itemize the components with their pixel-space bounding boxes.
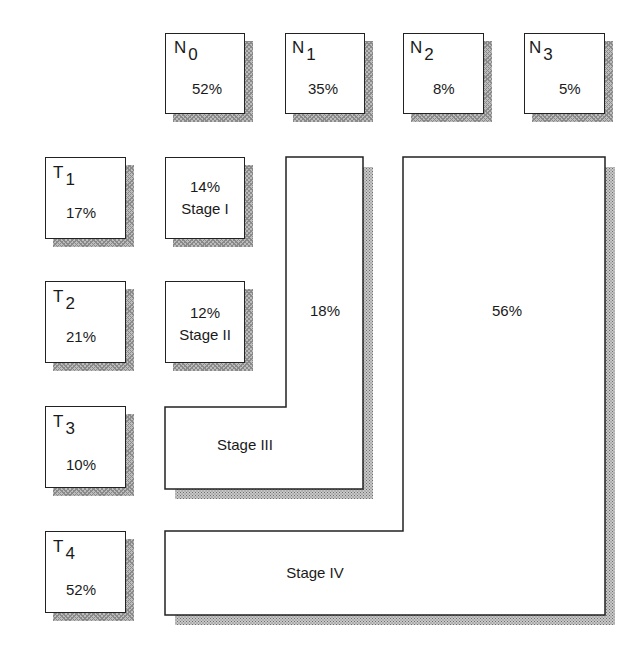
stage2-label: Stage II	[166, 326, 244, 345]
stage3-label: Stage III	[190, 436, 300, 455]
stage2-value: 12%	[166, 304, 244, 323]
stage1-value: 14%	[166, 178, 244, 197]
stage4-shape	[0, 0, 644, 657]
stage3-value: 18%	[290, 302, 360, 321]
stage1-box: 14% Stage I	[165, 157, 245, 239]
stage4-label: Stage IV	[260, 564, 370, 583]
stage2-box: 12% Stage II	[165, 281, 245, 363]
stage4-value: 56%	[472, 302, 542, 321]
stage1-label: Stage I	[166, 200, 244, 219]
